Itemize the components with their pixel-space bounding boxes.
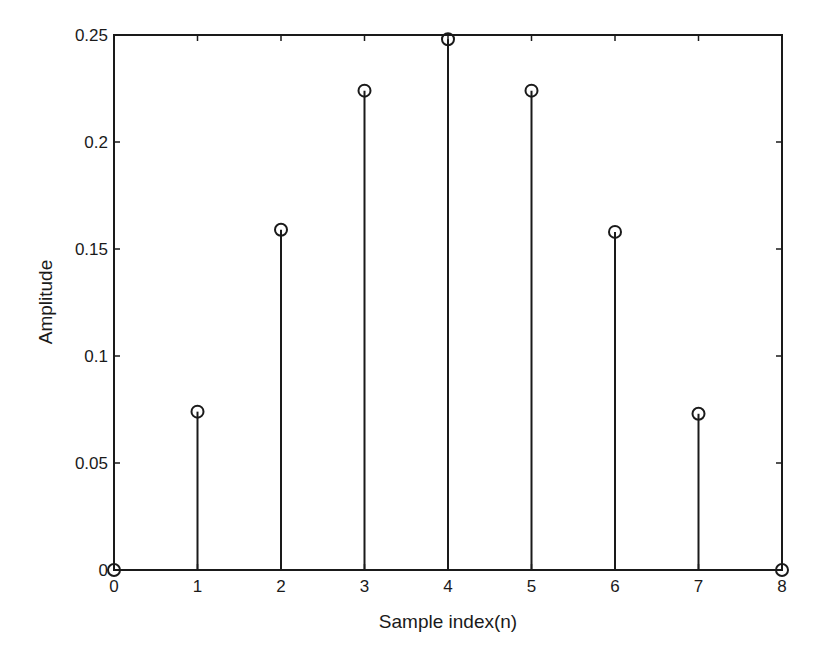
- x-tick-label: 6: [610, 577, 619, 596]
- stem-chart: 00.050.10.150.20.25 012345678 Sample ind…: [0, 0, 817, 660]
- x-tick-label: 4: [443, 577, 452, 596]
- data-series: [108, 33, 788, 576]
- x-tick-label: 1: [193, 577, 202, 596]
- x-axis-label: Sample index(n): [379, 611, 517, 632]
- y-tick-label: 0.25: [75, 26, 108, 45]
- x-tick-label: 5: [527, 577, 536, 596]
- y-axis: 00.050.10.150.20.25: [75, 26, 782, 580]
- y-tick-label: 0: [99, 561, 108, 580]
- y-tick-label: 0.2: [84, 133, 108, 152]
- x-tick-label: 3: [360, 577, 369, 596]
- x-tick-label: 2: [276, 577, 285, 596]
- x-tick-label: 7: [694, 577, 703, 596]
- y-tick-label: 0.1: [84, 347, 108, 366]
- x-tick-label: 8: [777, 577, 786, 596]
- y-tick-label: 0.05: [75, 454, 108, 473]
- x-tick-label: 0: [109, 577, 118, 596]
- y-tick-label: 0.15: [75, 240, 108, 259]
- y-axis-label: Amplitude: [35, 260, 56, 345]
